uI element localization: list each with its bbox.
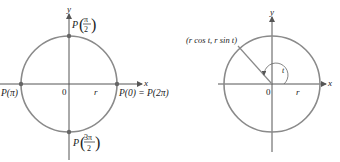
angle-label: t <box>282 66 285 75</box>
point-coordinate-label: (r cos t, r sin t) <box>186 35 237 45</box>
right-diagram: y x 0 r t (r cos t, r sin t) <box>186 7 332 152</box>
right-origin-label: 0 <box>266 87 271 97</box>
point-right-label: P(0) = P(2π) <box>118 88 169 99</box>
point-left-label: P(π) <box>0 88 18 99</box>
svg-text:): ) <box>95 134 100 152</box>
svg-text:P: P <box>71 19 78 30</box>
svg-text:π: π <box>84 15 88 24</box>
angle-arc <box>264 63 288 84</box>
point-left-marker <box>19 82 23 86</box>
right-y-label: y <box>269 7 274 17</box>
point-bottom-label: P ( 3π 2 ) <box>72 133 100 153</box>
svg-text:2: 2 <box>87 144 91 153</box>
left-y-label: y <box>66 4 71 14</box>
svg-text:P: P <box>72 137 79 148</box>
left-origin-label: 0 <box>62 87 67 97</box>
svg-text:2: 2 <box>84 25 88 34</box>
right-radius-label: r <box>296 87 300 97</box>
right-x-label: x <box>327 78 332 88</box>
radius-line <box>238 46 272 84</box>
unit-circle-figure: y x 0 r P ( π 2 ) P(π) P(0) = P(2π) P ( … <box>0 0 340 162</box>
left-x-label: x <box>143 78 148 88</box>
point-top-marker <box>67 34 71 38</box>
left-radius-label: r <box>94 87 98 97</box>
point-right-marker <box>115 82 119 86</box>
svg-text:3π: 3π <box>84 133 92 142</box>
left-diagram: y x 0 r P ( π 2 ) P(π) P(0) = P(2π) P ( … <box>0 4 169 160</box>
point-bottom-marker <box>67 130 71 134</box>
point-top-label: P ( π 2 ) <box>71 15 96 34</box>
svg-text:): ) <box>91 16 96 34</box>
